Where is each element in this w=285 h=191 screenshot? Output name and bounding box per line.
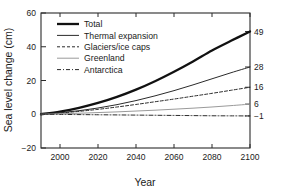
right-axis-label: −1 <box>254 111 264 121</box>
x-tick-label: 2080 <box>203 152 222 162</box>
curve-thermal-expansion <box>41 67 250 114</box>
y-axis-ticks <box>41 13 46 148</box>
right-axis-label: 16 <box>254 82 264 92</box>
y-tick-labels: 6040200−20 <box>22 8 37 153</box>
right-axis-label: 6 <box>254 99 259 109</box>
x-tick-label: 2060 <box>165 152 184 162</box>
right-axis-value-labels: 4928166−1 <box>254 27 264 121</box>
x-tick-label: 2000 <box>51 152 70 162</box>
legend-label-total: Total <box>84 19 102 29</box>
y-tick-label: 40 <box>27 42 37 52</box>
right-axis-label: 49 <box>254 27 264 37</box>
y-axis-title: Sea level change (cm) <box>2 28 14 132</box>
y-tick-label: −20 <box>22 143 37 153</box>
legend-label-glaciers-ice-caps: Glaciers/ice caps <box>84 42 151 52</box>
legend-label-thermal-expansion: Thermal expansion <box>84 31 158 41</box>
x-tick-labels: 200020202040206020802100 <box>51 152 260 162</box>
y-tick-label: 20 <box>27 76 37 86</box>
y-tick-label: 60 <box>27 8 37 18</box>
legend-label-greenland: Greenland <box>84 53 125 63</box>
x-tick-label: 2100 <box>241 152 260 162</box>
x-axis-title: Year <box>134 176 156 188</box>
chart-legend: TotalThermal expansionGlaciers/ice capsG… <box>57 19 158 75</box>
curve-antarctica <box>41 114 250 116</box>
x-tick-label: 2040 <box>127 152 146 162</box>
sea-level-chart-figure: 200020202040206020802100 6040200−20 4928… <box>0 0 285 191</box>
right-axis-label: 28 <box>254 62 264 72</box>
right-axis-ticks <box>245 32 250 116</box>
x-tick-label: 2020 <box>89 152 108 162</box>
chart-svg: 200020202040206020802100 6040200−20 4928… <box>0 0 285 191</box>
legend-label-antarctica: Antarctica <box>84 65 123 75</box>
y-tick-label: 0 <box>31 109 36 119</box>
